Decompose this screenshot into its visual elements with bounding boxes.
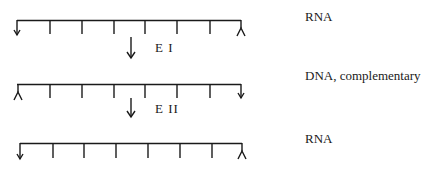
enzyme-2-label: E II [155, 101, 179, 117]
strand-1 [14, 20, 245, 36]
fork-end-icon [238, 143, 246, 159]
tick-marks [50, 84, 210, 98]
enzyme-1-label: E I [155, 40, 174, 56]
strand-2-label: DNA, complementary [305, 68, 421, 84]
arrow-down-icon [17, 143, 23, 159]
tick-marks [50, 20, 210, 34]
replication-diagram [0, 0, 433, 173]
step-arrow-2 [127, 98, 135, 117]
fork-end-icon [14, 84, 22, 100]
fork-end-icon [237, 20, 245, 36]
step-arrow-1 [127, 37, 135, 58]
strand-3-label: RNA [305, 131, 332, 147]
strand-3 [17, 143, 246, 159]
tick-marks [53, 143, 212, 158]
arrow-down-icon [14, 20, 20, 35]
strand-1-label: RNA [305, 9, 332, 25]
arrow-down-icon [238, 84, 244, 98]
strand-2 [14, 84, 244, 100]
